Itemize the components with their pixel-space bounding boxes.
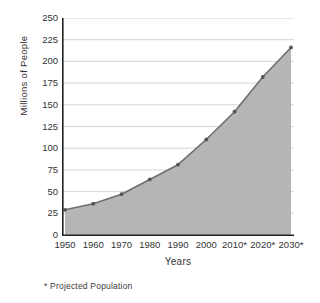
x-axis-tick-label: 1980: [139, 240, 160, 250]
y-axis-tick-label: 100: [32, 143, 58, 153]
plot-area: [62, 18, 294, 236]
area-fill: [65, 48, 291, 235]
x-axis-tick-label: 2030*: [279, 240, 304, 250]
x-axis-tick-label: 1950: [54, 240, 75, 250]
x-axis-tick-label: 1990: [167, 240, 188, 250]
chart-plot-svg: [62, 18, 294, 236]
data-point-marker: [91, 202, 95, 206]
y-axis-tick-label: 25: [32, 208, 58, 218]
y-axis-tick-label: 200: [32, 56, 58, 66]
data-point-marker: [261, 75, 265, 79]
data-point-marker: [233, 110, 237, 114]
x-axis-tick-label: 2010*: [222, 240, 247, 250]
population-area-chart: Millions of People 025507510012515017520…: [0, 0, 320, 303]
x-axis-tick-labels: 1950196019701980199020002010*2020*2030*: [62, 240, 294, 254]
data-point-marker: [289, 46, 293, 50]
x-axis-tick-label: 2020*: [250, 240, 275, 250]
data-point-marker: [120, 192, 124, 196]
x-axis-tick-label: 1960: [83, 240, 104, 250]
data-point-marker: [204, 138, 208, 142]
y-axis-tick-label: 225: [32, 35, 58, 45]
x-axis-title: Years: [62, 256, 294, 267]
projected-population-footnote: * Projected Population: [44, 281, 133, 291]
data-point-marker: [148, 178, 152, 182]
y-axis-tick-label: 150: [32, 100, 58, 110]
y-axis-tick-label: 250: [32, 13, 58, 23]
y-axis-tick-label: 125: [32, 122, 58, 132]
y-axis-tick-label: 50: [32, 187, 58, 197]
x-axis-tick-label: 1970: [111, 240, 132, 250]
x-axis-tick-label: 2000: [196, 240, 217, 250]
y-axis-tick-label: 75: [32, 165, 58, 175]
data-point-marker: [63, 208, 67, 212]
data-point-marker: [176, 163, 180, 167]
y-axis-title: Millions of People: [18, 6, 29, 146]
y-axis-tick-label: 175: [32, 78, 58, 88]
y-axis-tick-labels: 0255075100125150175200225250: [30, 18, 58, 236]
